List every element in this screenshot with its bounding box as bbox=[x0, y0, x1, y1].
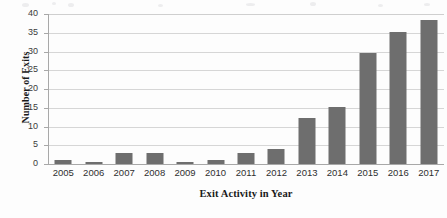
y-axis-title-holder: Number of Exits bbox=[6, 30, 26, 140]
x-axis-tick-label: 2016 bbox=[383, 167, 413, 179]
bar-slot bbox=[109, 14, 139, 164]
x-axis-line bbox=[44, 164, 444, 165]
y-axis-tick-label: 40 bbox=[10, 9, 38, 18]
bar bbox=[207, 160, 224, 164]
bar bbox=[237, 153, 254, 164]
bar-slot bbox=[170, 14, 200, 164]
x-axis-tick-label: 2011 bbox=[231, 167, 261, 179]
bar bbox=[177, 162, 194, 164]
bar-chart-figure: 0510152025303540 20052006200720082009201… bbox=[0, 0, 447, 218]
x-axis-tick-label: 2017 bbox=[414, 167, 444, 179]
scan-artifact-band bbox=[0, 0, 447, 12]
bar-slot bbox=[48, 14, 78, 164]
bar-slot bbox=[200, 14, 230, 164]
x-axis-tick-label: 2015 bbox=[353, 167, 383, 179]
bar-slot bbox=[139, 14, 169, 164]
bar-series bbox=[48, 14, 444, 164]
bar bbox=[146, 153, 163, 164]
bar bbox=[268, 149, 285, 164]
bar bbox=[55, 160, 72, 164]
bar-slot bbox=[414, 14, 444, 164]
x-axis-tick-label: 2012 bbox=[261, 167, 291, 179]
bar-slot bbox=[292, 14, 322, 164]
bar bbox=[390, 32, 407, 164]
x-axis-tick-label: 2010 bbox=[200, 167, 230, 179]
bar-slot bbox=[78, 14, 108, 164]
y-axis-tick-label: 0 bbox=[10, 159, 38, 168]
bar-slot bbox=[261, 14, 291, 164]
x-axis-tick-label: 2014 bbox=[322, 167, 352, 179]
y-axis-title: Number of Exits bbox=[20, 33, 31, 143]
x-axis-tick-label: 2007 bbox=[109, 167, 139, 179]
bar-slot bbox=[231, 14, 261, 164]
bar bbox=[359, 53, 376, 164]
bar bbox=[329, 107, 346, 164]
x-axis-tick-label: 2005 bbox=[48, 167, 78, 179]
bar bbox=[420, 20, 437, 164]
x-axis-tick-labels: 2005200620072008200920102011201220132014… bbox=[48, 167, 444, 183]
x-axis-tick-label: 2008 bbox=[139, 167, 169, 179]
x-axis-tick-label: 2009 bbox=[170, 167, 200, 179]
bar bbox=[298, 118, 315, 164]
bar bbox=[116, 153, 133, 164]
x-axis-tick-label: 2013 bbox=[292, 167, 322, 179]
x-axis-tick-label: 2006 bbox=[78, 167, 108, 179]
x-axis-title: Exit Activity in Year bbox=[48, 188, 444, 199]
bar-slot bbox=[322, 14, 352, 164]
bar-slot bbox=[353, 14, 383, 164]
bar-slot bbox=[383, 14, 413, 164]
bar bbox=[85, 162, 102, 164]
